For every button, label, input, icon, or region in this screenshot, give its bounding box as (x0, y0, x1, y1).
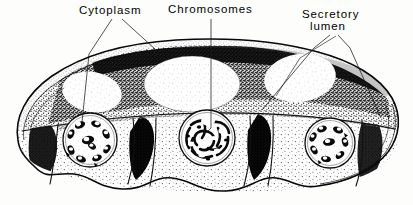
histology-figure: Cytoplasm Chromosomes Secretorylumen (0, 0, 413, 205)
label-secretory-lumen: Secretorylumen (302, 8, 359, 32)
leader-lumen-b (338, 35, 350, 48)
nucleus-center (179, 110, 235, 166)
nucleus-right (305, 118, 355, 168)
label-cytoplasm: Cytoplasm (79, 4, 141, 16)
label-secretory-lumen-line1: Secretory (302, 8, 359, 20)
nucleus-left (63, 113, 117, 167)
label-chromosomes: Chromosomes (168, 3, 253, 15)
label-secretory-lumen-line2: lumen (302, 20, 359, 32)
leader-cytoplasm-a (89, 19, 112, 54)
